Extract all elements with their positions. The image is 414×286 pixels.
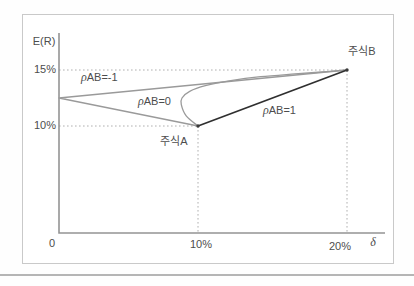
- page: E(R) 15% 10% 0 10% 20% δ ρAB=-1 ρAB=0 ρA…: [0, 0, 414, 286]
- stock-a-label: 주식A: [146, 135, 202, 148]
- correlation-label-zero: ρAB=0: [138, 95, 171, 108]
- correlation-label-text: AB=0: [144, 95, 171, 107]
- bottom-divider: [0, 274, 414, 276]
- x-tick-20: 20%: [324, 240, 356, 253]
- correlation-label-one: ρAB=1: [263, 104, 296, 117]
- x-tick-0: 0: [44, 237, 60, 250]
- y-axis-title: E(R): [29, 35, 59, 48]
- y-tick-15: 15%: [28, 63, 56, 76]
- stock-b-label: 주식B: [334, 45, 390, 58]
- x-tick-10: 10%: [185, 238, 217, 251]
- x-axis-title: δ: [364, 236, 382, 249]
- y-tick-10: 10%: [28, 119, 56, 132]
- correlation-label-minus-one: ρAB=-1: [81, 71, 118, 84]
- correlation-label-text: AB=1: [269, 104, 296, 116]
- correlation-label-text: AB=-1: [87, 71, 118, 83]
